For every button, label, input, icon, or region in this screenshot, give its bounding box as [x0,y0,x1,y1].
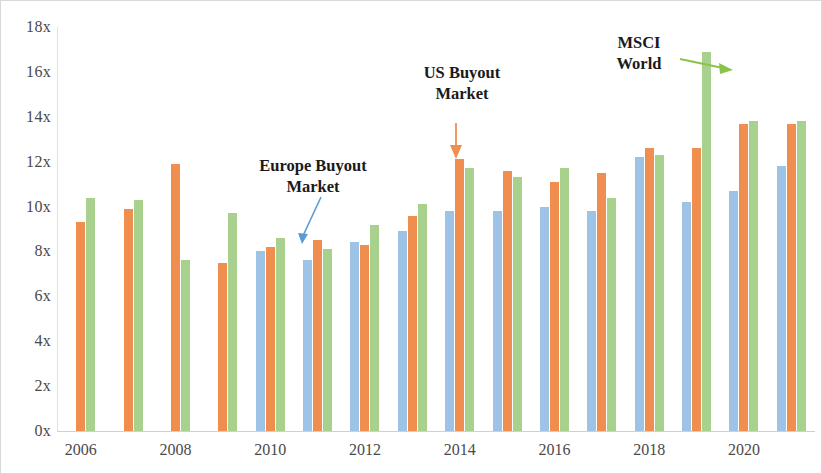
bar [228,213,237,431]
bar [739,124,748,431]
bar [445,211,454,431]
bar [645,148,654,431]
bar [313,240,322,431]
annotation-europe-buyout-market: Europe Buyout Market [238,156,388,197]
annotation-us-buyout-market: US Buyout Market [387,63,537,104]
bar [171,164,180,431]
x-axis-baseline [57,431,815,432]
bar [777,166,786,431]
bar [266,247,275,431]
bar [276,238,285,431]
y-axis-tick-label: 6x [34,287,51,305]
y-axis-tick-label: 12x [26,153,51,171]
bar [398,231,407,431]
x-axis-tick-label: 2020 [728,441,760,459]
bar [797,121,806,431]
y-axis-tick-label: 14x [26,108,51,126]
bar [350,242,359,431]
bar [218,263,227,431]
bar [749,121,758,431]
bar [655,155,664,431]
y-axis-tick-label: 16x [26,63,51,81]
bar [86,198,95,431]
x-axis-tick-label: 2010 [254,441,286,459]
bar [256,251,265,431]
y-axis-tick-label: 0x [34,422,51,440]
x-axis-tick-label: 2006 [65,441,97,459]
x-axis: 20062008201020122014201620182020 [1,441,822,471]
bar [692,148,701,431]
bar [134,200,143,431]
x-axis-tick-label: 2016 [538,441,570,459]
bar [503,171,512,431]
bar [607,198,616,431]
x-axis-tick-label: 2014 [444,441,476,459]
y-axis-tick-label: 18x [26,18,51,36]
bar [587,211,596,431]
bar [323,249,332,431]
bar [124,209,133,431]
bar [729,191,738,431]
annotation-msci-world: MSCI World [587,33,691,74]
y-axis: 0x2x4x6x8x10x12x14x16x18x [1,1,51,474]
bar [550,182,559,431]
bar [76,222,85,431]
y-axis-tick-label: 10x [26,198,51,216]
bar [787,124,796,431]
bar-chart: 0x2x4x6x8x10x12x14x16x18x 20062008201020… [0,0,822,474]
bar [370,225,379,431]
y-axis-tick-label: 2x [34,377,51,395]
bar [513,177,522,431]
x-axis-tick-label: 2008 [159,441,191,459]
x-axis-tick-label: 2012 [349,441,381,459]
bar [360,245,369,431]
bar [702,52,711,431]
bar [455,159,464,431]
bar [303,260,312,431]
bar [408,216,417,431]
bar [418,204,427,431]
bar [181,260,190,431]
bar [682,202,691,431]
bar [635,157,644,431]
x-axis-tick-label: 2018 [633,441,665,459]
bar [560,168,569,431]
bar [493,211,502,431]
y-axis-tick-label: 8x [34,242,51,260]
bar [465,168,474,431]
bar [540,207,549,431]
bar [597,173,606,431]
y-axis-tick-label: 4x [34,332,51,350]
